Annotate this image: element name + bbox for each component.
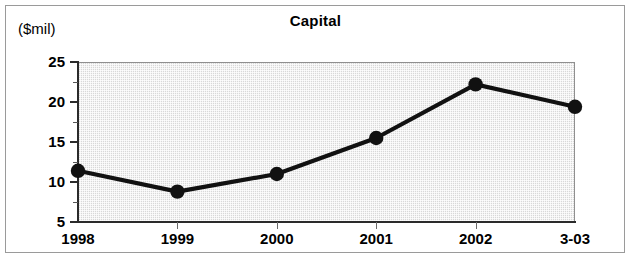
x-tick-2002: [476, 222, 477, 229]
y-minor-tick: [73, 122, 78, 123]
y-tick-10: [70, 181, 78, 183]
plot-area: [78, 62, 575, 222]
chart-screenshot: ($mil) Capital 510152025 199819992000200…: [0, 0, 631, 264]
x-tick-label-2002: 2002: [459, 231, 492, 246]
x-tick-label-2000: 2000: [260, 231, 293, 246]
y-tick-20: [70, 101, 78, 103]
y-minor-tick: [73, 162, 78, 163]
x-tick-label-1998: 1998: [61, 231, 94, 246]
y-tick-label-20: 20: [48, 94, 65, 109]
x-tick-label-3-03: 3-03: [560, 231, 590, 246]
y-tick-5: [70, 221, 78, 223]
y-tick-label-10: 10: [48, 174, 65, 189]
y-tick-label-5: 5: [57, 214, 65, 229]
y-tick-15: [70, 141, 78, 143]
chart-title: Capital: [0, 12, 631, 29]
x-tick-2001: [376, 222, 377, 229]
y-tick-label-15: 15: [48, 134, 65, 149]
x-axis-line: [77, 221, 576, 223]
y-minor-tick: [73, 82, 78, 83]
y-tick-25: [70, 61, 78, 63]
x-tick-label-2001: 2001: [360, 231, 393, 246]
x-tick-1999: [177, 222, 178, 229]
x-tick-2000: [277, 222, 278, 229]
x-tick-label-1999: 1999: [161, 231, 194, 246]
y-minor-tick: [73, 202, 78, 203]
y-tick-label-25: 25: [48, 54, 65, 69]
